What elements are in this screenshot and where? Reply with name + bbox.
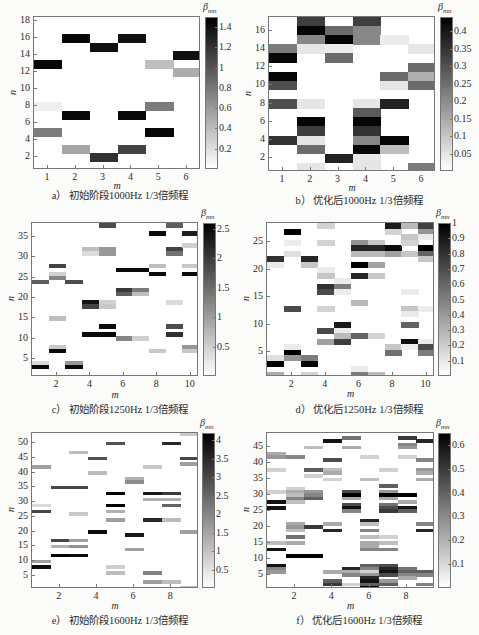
x-tick-mark	[47, 165, 48, 168]
heatmap-cell	[82, 251, 99, 256]
heatmap-cell	[69, 451, 88, 454]
x-tick-mark	[190, 372, 191, 375]
colorbar-tick-label: 0.2	[452, 340, 465, 350]
x-axis-label: m	[114, 180, 121, 191]
y-tick-mark	[34, 105, 37, 106]
colorbar-tick-label: 2	[216, 509, 221, 519]
x-tick-label: 2	[46, 379, 66, 389]
heatmap-plot-area-a	[33, 16, 200, 169]
colorbar-tick-label: 0.15	[454, 114, 472, 124]
heatmap-cell	[317, 306, 334, 312]
y-tick-mark	[269, 103, 272, 104]
x-tick-mark	[186, 165, 187, 168]
heatmap-cell	[342, 436, 361, 440]
heatmap-cell	[401, 311, 418, 317]
heatmap-cell	[418, 256, 434, 262]
heatmap-cell	[173, 51, 200, 60]
colorbar-tick-label: 1.5	[216, 528, 229, 538]
x-tick-mark	[89, 372, 90, 375]
heatmap-cell	[398, 493, 417, 497]
y-tick-mark	[34, 37, 37, 38]
heatmap-cell	[416, 458, 434, 462]
y-tick-label: 25	[8, 272, 28, 282]
colorbar-tick-mark	[448, 540, 451, 541]
colorbar-tick-label: 0.1	[452, 559, 465, 569]
heatmap-cell	[49, 276, 66, 281]
y-tick-mark	[32, 472, 35, 473]
heatmap-cell	[351, 262, 368, 268]
heatmap-cell	[49, 349, 66, 354]
heatmap-cell	[286, 535, 305, 539]
y-tick-mark	[267, 324, 270, 325]
caption-e: e） 初始阶段1600Hz 1/3倍频程	[0, 612, 240, 627]
y-tick-mark	[34, 122, 37, 123]
y-tick-label: 8	[10, 100, 30, 110]
heatmap-plot-area-f	[266, 432, 434, 588]
x-tick-label: 2	[65, 172, 85, 182]
heatmap-cell	[360, 586, 379, 588]
heatmap-cell	[106, 518, 125, 521]
heatmap-cell	[398, 509, 417, 513]
heatmap-cell	[398, 500, 417, 504]
y-tick-mark	[269, 121, 272, 122]
colorbar-label: βmn	[200, 417, 214, 431]
colorbar-tick-mark	[215, 128, 218, 129]
x-tick-label: 6	[176, 172, 196, 182]
heatmap-plot-area-d	[266, 222, 434, 376]
heatmap-cell	[342, 497, 361, 501]
heatmap-cell	[69, 512, 88, 515]
y-tick-label: 10	[8, 333, 28, 343]
heatmap-cell	[145, 60, 173, 69]
y-tick-label: 6	[10, 117, 30, 127]
y-tick-mark	[269, 157, 272, 158]
heatmap-cell	[401, 240, 418, 246]
colorbar-c	[203, 223, 216, 376]
x-tick-label: 1	[37, 172, 57, 182]
colorbar-tick-label: 0.3	[452, 325, 465, 335]
heatmap-cell	[143, 465, 162, 468]
colorbar-tick-mark	[213, 258, 216, 259]
heatmap-cell	[118, 145, 146, 154]
x-tick-mark	[421, 167, 422, 170]
colorbar-tick-label: 0.35	[454, 44, 472, 54]
heatmap-cell	[360, 455, 379, 459]
x-tick-label: 6	[113, 379, 133, 389]
heatmap-cell	[106, 571, 125, 574]
x-tick-label: 10	[180, 379, 200, 389]
caption-d: d） 优化后1250Hz 1/3倍频程	[239, 401, 479, 416]
x-tick-mark	[338, 167, 339, 170]
caption-c: c） 初始阶段1250Hz 1/3倍频程	[0, 401, 240, 416]
heatmap-cell	[99, 324, 116, 329]
x-tick-mark	[158, 165, 159, 168]
heatmap-cell	[62, 34, 90, 43]
heatmap-cell	[360, 529, 379, 533]
heatmap-cell	[342, 573, 361, 577]
colorbar-tick-label: 0.7	[452, 264, 465, 274]
colorbar-tick-label: 0.4	[454, 26, 467, 36]
colorbar-tick-mark	[215, 88, 218, 89]
colorbar-tick-mark	[215, 27, 218, 28]
x-tick-mark	[133, 584, 134, 587]
colorbar-tick-mark	[448, 238, 451, 239]
heatmap-cell	[180, 530, 198, 533]
heatmap-cell	[286, 541, 305, 545]
x-tick-label: 4	[321, 591, 341, 601]
colorbar-label: βmn	[438, 1, 452, 15]
heatmap-cell	[297, 163, 325, 171]
colorbar-tick-label: 0.5	[452, 295, 465, 305]
heatmap-cell	[125, 533, 144, 536]
colorbar-tick-mark	[450, 136, 453, 137]
y-tick-label: 20	[8, 526, 28, 536]
y-tick-mark	[32, 236, 35, 237]
heatmap-cell	[408, 44, 435, 54]
colorbar-tick-mark	[448, 315, 451, 316]
heatmap-cell	[106, 510, 125, 513]
y-tick-mark	[32, 575, 35, 576]
x-tick-mark	[291, 372, 292, 375]
heatmap-cell	[182, 272, 198, 277]
colorbar-label: βmn	[436, 417, 450, 431]
heatmap-cell	[379, 509, 398, 513]
heatmap-cell	[385, 251, 402, 257]
heatmap-cell	[416, 573, 434, 577]
x-tick-label: 1	[272, 174, 292, 184]
